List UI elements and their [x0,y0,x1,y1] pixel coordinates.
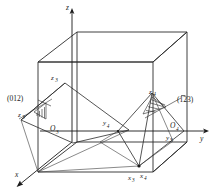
point-label-o4: O 4 [170,121,179,132]
plane-012-trace-bottom-right [38,166,139,172]
plane-1bar23-lower-wedge [100,131,139,166]
plane-1bar23-label: (123) [177,95,194,104]
plane-1bar23-edge-upper-right [152,93,173,141]
axis-y-label: y [199,134,204,143]
point-x4-sub: 4 [144,175,147,181]
plane-012-label: (012) [7,94,24,103]
point-z4-sub: 4 [153,91,156,97]
point-x3-sub: 3 [132,177,135,183]
point-z3-left-base: z [17,111,21,119]
point-label-z3-left: z 3 [17,111,25,120]
point-z3-left-sub: 3 [22,114,25,120]
point-z3-top-base: z [50,74,54,82]
axis-x-arrowhead [17,180,24,187]
axis-x-line [19,142,72,185]
plane-012-edge-upper-left [21,83,65,120]
crystallographic-diagram: z y x (012) (123) z 3 z 3 z 4 O 3 O 4 [0,0,214,196]
point-label-y3: y 3 [165,134,173,143]
axis-x-label: x [14,170,19,179]
point-label-y4: y 4 [102,119,110,129]
point-o3-sub: 3 [56,129,59,135]
axis-z-label: z [65,3,69,12]
point-label-x3: x 3 [127,174,135,183]
plane-012-trace-bottom [38,130,129,172]
point-o4-sub: 4 [176,126,179,132]
plane-1bar23-left-wedge [118,93,152,166]
cube-bottom-right-diagonal [153,142,187,172]
junction-dot-x3x4 [137,164,140,167]
point-label-x4: x 4 [139,172,147,181]
plane-1bar23-edge-right [139,141,173,166]
cube-top-face [38,32,187,62]
point-z4-base: z [148,88,152,96]
figure-root: z y x (012) (123) z 3 z 3 z 4 O 3 O 4 [0,0,214,196]
point-y3-sub: 3 [170,137,173,143]
plane-012-hatch-triangle [34,103,46,119]
point-y4-sub: 4 [107,123,110,129]
junction-dot-y4 [117,130,119,132]
point-z3-top-sub: 3 [55,77,58,83]
plane-1bar23-label-group: (123) [177,95,194,104]
plane-012-trace-left [21,120,38,172]
point-label-z3-top: z 3 [50,74,58,83]
